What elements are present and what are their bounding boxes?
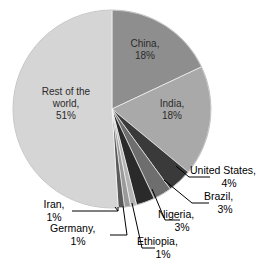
callout-label-iran-name: Iran, — [43, 198, 64, 210]
callout-label-nigeria-name: Nigeria, — [158, 208, 194, 220]
callout-label-germany: Germany, 1% — [50, 222, 106, 247]
callout-label-brazil-pct: 3% — [204, 203, 246, 216]
callout-label-nigeria: Nigeria, 3% — [158, 208, 206, 233]
pie-slices-group — [13, 10, 211, 208]
callout-label-ethiopia: Ethiopia, 1% — [137, 235, 189, 260]
callout-label-united-states-pct: 4% — [190, 177, 265, 190]
pie-chart-figure: China, 18% India, 18% Rest of the world,… — [0, 0, 265, 266]
callout-label-germany-pct: 1% — [50, 235, 106, 248]
callout-label-ethiopia-pct: 1% — [137, 248, 189, 261]
callout-label-united-states-name: United States, — [190, 164, 256, 176]
callout-label-brazil: Brazil, 3% — [204, 190, 246, 215]
callout-label-iran: Iran, 1% — [36, 198, 72, 223]
pie-chart-canvas — [0, 0, 265, 266]
callout-label-nigeria-pct: 3% — [158, 221, 206, 234]
callout-label-brazil-name: Brazil, — [204, 190, 233, 202]
callout-label-iran-pct: 1% — [36, 211, 72, 224]
callout-label-united-states: United States, 4% — [190, 164, 265, 189]
callout-label-ethiopia-name: Ethiopia, — [137, 235, 178, 247]
callout-label-germany-name: Germany, — [50, 222, 95, 234]
pie-slice-rest-of-the-world[interactable] — [13, 10, 118, 208]
